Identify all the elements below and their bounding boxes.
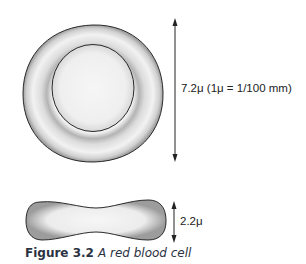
cell-side-profile xyxy=(26,200,166,240)
thickness-arrow xyxy=(172,201,177,243)
figure-title: A red blood cell xyxy=(98,246,192,260)
cell-side-view xyxy=(26,200,166,240)
figure-number: Figure 3.2 xyxy=(25,246,94,260)
diameter-label: 7.2μ (1μ = 1/100 mm) xyxy=(181,82,292,94)
cell-central-pallor xyxy=(52,45,134,132)
cell-top-view xyxy=(23,25,163,162)
diameter-arrow xyxy=(173,18,178,162)
thickness-label: 2.2μ xyxy=(180,215,203,227)
red-blood-cell-diagram xyxy=(0,0,306,264)
figure-caption: Figure 3.2A red blood cell xyxy=(25,246,191,260)
